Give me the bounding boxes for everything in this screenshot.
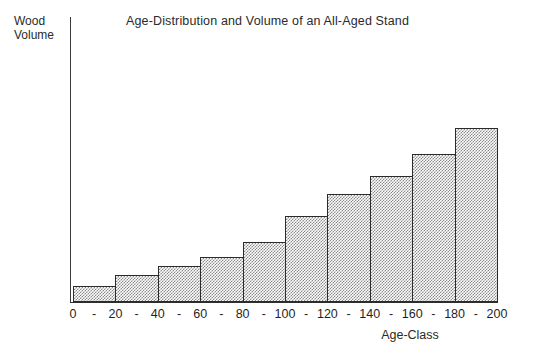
bar: [73, 286, 116, 302]
plot-area: 0-20-40-60-80-100-120-140-160-180-200: [0, 0, 535, 362]
bar: [455, 128, 498, 302]
bar: [243, 242, 286, 302]
x-axis-label: Age-Class: [330, 328, 490, 342]
x-tick-label: 200: [477, 307, 517, 321]
bar: [200, 257, 243, 302]
bar: [370, 176, 413, 302]
bar: [115, 275, 158, 302]
chart-figure: Age-Distribution and Volume of an All-Ag…: [0, 0, 535, 362]
bar: [158, 266, 201, 302]
bar: [412, 154, 455, 302]
bar: [327, 194, 370, 302]
bar: [285, 216, 328, 302]
